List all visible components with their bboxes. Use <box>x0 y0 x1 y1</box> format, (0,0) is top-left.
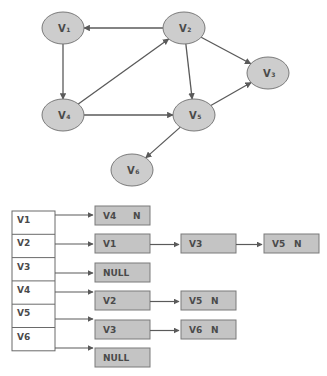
graph-node-v1: V1 <box>42 12 84 44</box>
edge-v2-to-v5 <box>186 44 192 99</box>
null-pointer-marker: N <box>294 239 302 249</box>
null-pointer-marker: N <box>211 325 219 335</box>
list-node-label: V5 <box>272 239 285 249</box>
list-node-v3: V3 <box>95 320 150 339</box>
graph-node-v5: V5 <box>173 99 215 131</box>
list-node-v3: V3 <box>181 234 236 253</box>
graph-diagram: V1V2V3V4V5V6 V1V4NV2V1V3V5NV3NULLV4V2V5N… <box>0 0 327 376</box>
list-node-v2: V2 <box>95 291 150 310</box>
index-vertex-label: V3 <box>17 262 30 272</box>
list-node-v4: V4N <box>95 206 150 225</box>
list-node-label: NULL <box>103 353 130 363</box>
list-node-v5: V5N <box>264 234 319 253</box>
graph-edges <box>63 28 251 158</box>
list-node-label: NULL <box>103 268 130 278</box>
index-vertex-label: V5 <box>17 308 30 318</box>
index-vertex-label: V4 <box>17 285 30 295</box>
index-vertex-label: V6 <box>17 332 30 342</box>
adjacency-list: V1V4NV2V1V3V5NV3NULLV4V2V5NV5V3V6NV6NULL <box>12 206 319 367</box>
adjacency-row-v2: V2V1V3V5N <box>12 234 319 253</box>
list-node-label: V5 <box>189 296 202 306</box>
edge-v2-to-v3 <box>201 37 251 64</box>
edge-v5-to-v6 <box>146 127 181 158</box>
graph-node-v3: V3 <box>247 57 289 89</box>
graph-node-v4: V4 <box>42 99 84 131</box>
list-node-label: V1 <box>103 239 116 249</box>
list-node-v1: V1 <box>95 234 150 253</box>
graph-nodes: V1V2V3V4V5V6 <box>42 12 289 186</box>
edge-v5-to-v3 <box>211 83 251 106</box>
edge-v4-to-v2 <box>78 39 168 104</box>
list-node-v5: V5N <box>181 291 236 310</box>
graph-node-v2: V2 <box>163 12 205 44</box>
null-pointer-marker: N <box>211 296 219 306</box>
null-pointer-marker: N <box>133 211 141 221</box>
list-node-label: V2 <box>103 296 116 306</box>
list-node-v6: V6N <box>181 320 236 339</box>
list-node-null: NULL <box>95 348 150 367</box>
list-node-label: V3 <box>103 325 116 335</box>
list-node-label: V6 <box>189 325 202 335</box>
graph-node-v6: V6 <box>111 154 153 186</box>
list-node-label: V4 <box>103 211 116 221</box>
index-vertex-label: V2 <box>17 238 30 248</box>
index-vertex-label: V1 <box>17 215 30 225</box>
list-node-null: NULL <box>95 263 150 282</box>
list-node-label: V3 <box>189 239 202 249</box>
